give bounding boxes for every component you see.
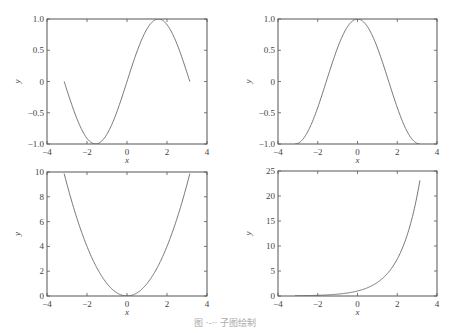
x-tick-label: 2 [395, 147, 400, 157]
y-tick-label: 4 [40, 241, 45, 251]
x-axis-label: x [355, 155, 360, 165]
subplot-cos: −4−2024−1.0−0.500.51.0xy [243, 14, 440, 165]
y-tick-label: 0 [40, 291, 45, 301]
y-tick-label: 1.0 [264, 14, 276, 24]
y-tick-label: 2 [40, 266, 45, 276]
y-tick-label: 0.5 [33, 45, 45, 55]
x-tick-label: −2 [82, 147, 92, 157]
y-tick-label: 1.0 [33, 14, 45, 24]
y-tick-label: 15 [266, 216, 276, 226]
x-tick-label: 2 [395, 299, 400, 309]
x-tick-label: −2 [82, 299, 92, 309]
y-tick-label: −1.0 [259, 139, 276, 149]
data-curve [64, 174, 190, 296]
data-curve [295, 19, 420, 144]
y-tick-label: −0.5 [259, 108, 276, 118]
y-axis-label: y [243, 232, 253, 237]
x-tick-label: 4 [435, 299, 440, 309]
data-curve [64, 19, 190, 144]
x-tick-label: 4 [435, 147, 440, 157]
y-tick-label: −0.5 [28, 108, 45, 118]
y-tick-label: 5 [271, 266, 276, 276]
x-tick-label: 4 [205, 147, 210, 157]
x-tick-label: −2 [313, 147, 323, 157]
subplot-figure: −4−2024−1.0−0.500.51.0xy −4−2024−1.0−0.5… [0, 0, 450, 333]
axes-box [47, 172, 207, 296]
y-tick-label: 0 [40, 77, 45, 87]
axes-box [278, 19, 437, 144]
y-tick-label: 10 [266, 241, 276, 251]
y-tick-label: 20 [266, 191, 276, 201]
y-axis-label: y [243, 80, 253, 85]
y-axis-label: y [12, 80, 22, 85]
subplot-sin: −4−2024−1.0−0.500.51.0xy [12, 14, 210, 165]
x-tick-label: −2 [313, 299, 323, 309]
y-tick-label: 0 [271, 77, 276, 87]
x-tick-label: 4 [205, 299, 210, 309]
x-axis-label: x [124, 155, 129, 165]
subplot-exp: −4−20240510152025xy [243, 166, 440, 317]
figure-caption: 图 ·-·· 子图绘制 [0, 316, 450, 329]
y-tick-label: 0 [271, 291, 276, 301]
y-tick-label: 6 [40, 217, 45, 227]
subplot-square: −4−20240246810xy [12, 167, 210, 317]
axes-box [278, 171, 437, 296]
y-tick-label: −1.0 [28, 139, 45, 149]
data-curve [295, 180, 420, 295]
y-tick-label: 8 [40, 192, 45, 202]
x-tick-label: 2 [165, 147, 170, 157]
y-tick-label: 25 [266, 166, 276, 176]
y-axis-label: y [12, 232, 22, 237]
x-tick-label: 2 [165, 299, 170, 309]
y-tick-label: 10 [35, 167, 45, 177]
y-tick-label: 0.5 [264, 45, 276, 55]
